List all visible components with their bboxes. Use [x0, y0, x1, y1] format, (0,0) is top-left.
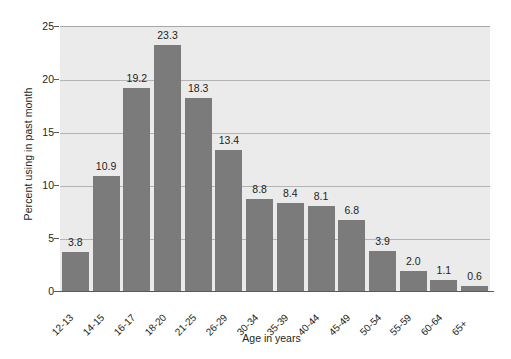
bar-value-label: 3.9 — [363, 235, 403, 247]
y-tick-label-5: 5 — [24, 232, 54, 244]
bar-value-label: 18.3 — [178, 82, 218, 94]
bar — [215, 150, 242, 292]
y-tick-label-15: 15 — [24, 126, 54, 138]
bar — [400, 271, 427, 292]
plot-area — [60, 26, 490, 292]
bar-value-label: 23.3 — [148, 29, 188, 41]
x-axis-line — [56, 291, 494, 292]
bar-value-label: 19.2 — [117, 72, 157, 84]
bar — [308, 206, 335, 292]
bar-value-label: 3.8 — [55, 236, 95, 248]
bar — [338, 220, 365, 292]
bar-value-label: 0.6 — [455, 270, 495, 282]
bar — [93, 176, 120, 292]
bar — [154, 45, 181, 292]
y-tick-mark-25 — [54, 26, 59, 27]
y-tick-mark-0 — [54, 291, 59, 292]
bar — [369, 251, 396, 292]
bar-value-label: 6.8 — [332, 204, 372, 216]
bar — [185, 98, 212, 292]
y-tick-mark-10 — [54, 185, 59, 186]
bar-value-label: 8.1 — [301, 190, 341, 202]
y-tick-mark-20 — [54, 79, 59, 80]
bar-chart-figure: Percent using in past month 0510152025 A… — [0, 0, 511, 359]
bar — [62, 252, 89, 292]
y-tick-label-0: 0 — [24, 285, 54, 297]
x-axis-title-wrap: Age in years — [0, 332, 511, 344]
bar-value-label: 10.9 — [86, 160, 126, 172]
y-tick-label-10: 10 — [24, 179, 54, 191]
bar — [123, 88, 150, 292]
y-tick-mark-15 — [54, 132, 59, 133]
bar — [246, 199, 273, 292]
y-tick-label-25: 25 — [24, 20, 54, 32]
y-axis-tick-labels: 0510152025 — [22, 0, 54, 359]
y-tick-label-20: 20 — [24, 73, 54, 85]
bar-value-label: 13.4 — [209, 134, 249, 146]
bar — [277, 203, 304, 292]
